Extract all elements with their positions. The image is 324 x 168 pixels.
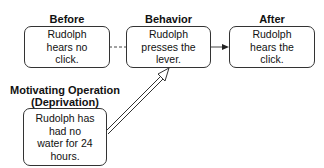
motivating-operation-text: Rudolph has had no water for 24 hours. xyxy=(36,112,95,162)
after-title: After xyxy=(229,13,315,25)
behavior-title: Behavior xyxy=(126,13,211,25)
motivating-operation-title: Motivating Operation xyxy=(0,84,130,96)
after-box: Rudolph hears the click. xyxy=(229,26,315,68)
after-text: Rudolph hears the click. xyxy=(250,28,294,66)
before-title: Before xyxy=(24,13,110,25)
deprivation-subtitle: (Deprivation) xyxy=(0,96,130,108)
before-box: Rudolph hears no click. xyxy=(24,26,110,68)
behavior-box: Rudolph presses the lever. xyxy=(126,26,211,68)
arrowhead-icon xyxy=(222,44,229,50)
behavior-text: Rudolph presses the lever. xyxy=(141,28,195,66)
before-text: Rudolph hears no click. xyxy=(47,28,88,66)
motivating-operation-box: Rudolph has had no water for 24 hours. xyxy=(23,108,107,166)
